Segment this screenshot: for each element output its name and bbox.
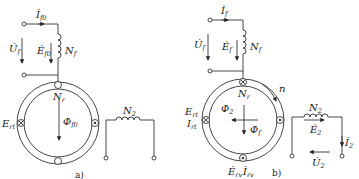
svg-text:Nr: Nr xyxy=(237,88,251,101)
terminal-icon xyxy=(22,22,26,26)
terminal-icon xyxy=(104,156,108,160)
svg-text:Ert: Ert xyxy=(1,118,15,131)
terminal-icon xyxy=(208,18,212,22)
terminal-icon xyxy=(208,69,212,73)
secondary-coil-icon xyxy=(304,114,328,117)
panel-b-labels: İf U̇f Ėf Nf n Nr Φ̇2 Φ̇f Ert Irt Ėrv İr… xyxy=(184,5,353,179)
label-if0: İf0 xyxy=(35,9,47,22)
svg-text:n: n xyxy=(279,83,285,94)
caption-b: b) xyxy=(272,168,281,178)
svg-text:N2: N2 xyxy=(308,102,322,115)
svg-text:Ėrv: Ėrv xyxy=(227,166,242,179)
panel-a-labels: İf0 U̇f Ėf0 Nf Nr Φ̇f0 Ert N2 a) xyxy=(1,9,136,179)
field-coil-icon xyxy=(243,30,246,54)
svg-text:Nf: Nf xyxy=(64,45,78,58)
svg-text:İ2: İ2 xyxy=(344,137,353,150)
svg-text:U̇f: U̇f xyxy=(9,43,21,56)
svg-text:Ė2: Ė2 xyxy=(309,124,321,137)
slot-top-icon xyxy=(55,82,62,89)
transformer-diagram: İf0 U̇f Ėf0 Nf Nr Φ̇f0 Ert N2 a) xyxy=(0,0,359,179)
field-coil-icon xyxy=(58,34,61,58)
svg-text:Φ̇f: Φ̇f xyxy=(250,124,262,137)
svg-text:U̇2: U̇2 xyxy=(312,157,325,170)
svg-text:Ėf0: Ėf0 xyxy=(36,45,51,58)
svg-text:Ėf: Ėf xyxy=(221,41,233,54)
svg-text:N2: N2 xyxy=(122,105,136,118)
svg-text:Nf: Nf xyxy=(249,41,263,54)
svg-text:Irt: Irt xyxy=(186,118,197,131)
svg-text:Φ̇2: Φ̇2 xyxy=(221,103,233,116)
terminal-icon xyxy=(152,156,156,160)
panel-b xyxy=(202,18,344,162)
terminal-icon xyxy=(22,73,26,77)
svg-text:U̇f: U̇f xyxy=(194,39,206,52)
svg-text:İrv: İrv xyxy=(242,166,254,179)
secondary-coil-icon xyxy=(116,117,140,120)
caption-a: a) xyxy=(75,170,84,179)
panel-a xyxy=(17,22,156,165)
slot-bottom-icon xyxy=(55,158,62,165)
svg-text:İf: İf xyxy=(220,5,229,18)
svg-text:Φ̇f0: Φ̇f0 xyxy=(63,116,78,129)
